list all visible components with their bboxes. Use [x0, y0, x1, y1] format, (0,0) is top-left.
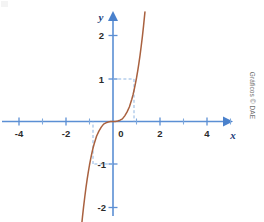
y-label-2: 2 — [99, 30, 104, 41]
y-label-1: 1 — [99, 74, 105, 85]
chart-screenshot: -4 -2 0 2 4 2 1 -1 -2 x y Gráficos © DAE — [0, 0, 264, 222]
x-label-2: 2 — [157, 128, 162, 139]
credit-text: Gráficos © DAE — [249, 61, 256, 131]
x-label-minus2: -2 — [62, 128, 70, 139]
x-axis-label: x — [229, 129, 236, 141]
axes-group — [2, 11, 233, 216]
y-axis-arrowhead — [108, 11, 118, 21]
cartesian-plot: -4 -2 0 2 4 2 1 -1 -2 x y — [0, 0, 264, 222]
x-label-zero: 0 — [118, 128, 123, 139]
x-label-minus4: -4 — [15, 128, 24, 139]
x-axis-arrowhead — [223, 117, 233, 127]
y-axis-label: y — [97, 11, 104, 23]
y-label-minus2: -2 — [98, 202, 106, 213]
y-label-minus1: -1 — [98, 159, 107, 170]
x-label-4: 4 — [204, 128, 210, 139]
